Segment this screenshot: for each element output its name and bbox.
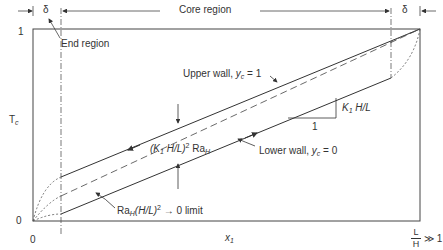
x-end-fraction: L H bbox=[411, 228, 421, 249]
left-end-lower-curve bbox=[33, 214, 61, 221]
right-delta-label: δ bbox=[402, 5, 408, 15]
upper-wall-pointer bbox=[270, 76, 277, 82]
limit-label: RaH(H/L)2 → 0 limit bbox=[117, 204, 203, 217]
y-bottom-tick: 0 bbox=[16, 216, 22, 226]
left-delta-label: δ bbox=[43, 5, 49, 15]
gap-label: (K1 H/L)2 RaH bbox=[150, 142, 210, 155]
lower-wall-line bbox=[61, 78, 391, 214]
plot-frame bbox=[33, 29, 420, 221]
core-region-label: Core region bbox=[179, 5, 231, 15]
y-axis-label: Tc bbox=[9, 115, 19, 126]
upper-wall-label: Upper wall, yc = 1 bbox=[183, 69, 261, 80]
x-end-suffix: ≫ 1 bbox=[424, 234, 442, 244]
lower-wall-pointer bbox=[238, 139, 255, 146]
lower-wall-label: Lower wall, yc = 0 bbox=[259, 146, 337, 157]
x-axis-label: x1 bbox=[225, 233, 234, 244]
y-top-tick: 1 bbox=[18, 27, 24, 37]
end-region-label: End region bbox=[61, 39, 109, 49]
slope-run-label: 1 bbox=[312, 122, 318, 132]
right-end-lower-curve bbox=[391, 29, 420, 78]
slope-rise-label: K1 H/L bbox=[342, 103, 371, 114]
lower-wall-flow-arrow bbox=[245, 133, 257, 138]
left-end-center-curve bbox=[33, 196, 61, 221]
x-origin-tick: 0 bbox=[30, 235, 36, 245]
upper-wall-flow-arrow bbox=[128, 145, 140, 150]
